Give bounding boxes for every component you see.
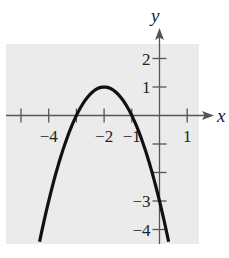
y-tick-label: 1 [142,78,151,97]
x-tick-label: 1 [183,127,192,146]
x-tick-label: −2 [95,127,113,146]
x-axis-label: x [216,105,226,126]
y-tick-label: 2 [142,50,151,69]
y-axis-label: y [149,5,160,26]
y-tick-label: −4 [132,221,151,240]
x-tick-label: −4 [40,127,59,146]
parabola-chart: x y −4−2−1121−3−4 [0,0,229,258]
y-tick-label: −3 [132,192,150,211]
